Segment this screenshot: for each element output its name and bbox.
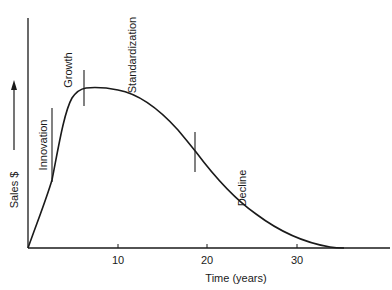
- phase-label-growth: Growth: [62, 52, 74, 87]
- y-axis-label: Sales $: [8, 172, 20, 209]
- x-tick-label-10: 10: [112, 254, 124, 266]
- x-tick-label-30: 30: [291, 254, 303, 266]
- x-tick-label-20: 20: [201, 254, 213, 266]
- phase-label-standardization: Standardization: [126, 17, 138, 93]
- phase-label-innovation: Innovation: [37, 120, 49, 171]
- sales-curve: [28, 88, 344, 248]
- phase-label-decline: Decline: [236, 170, 248, 207]
- x-axis-label: Time (years): [205, 272, 266, 284]
- arrow-up-icon: [11, 80, 17, 90]
- product-life-cycle-diagram: 10 20 30 Time (years) Sales $ Innovation…: [0, 0, 392, 290]
